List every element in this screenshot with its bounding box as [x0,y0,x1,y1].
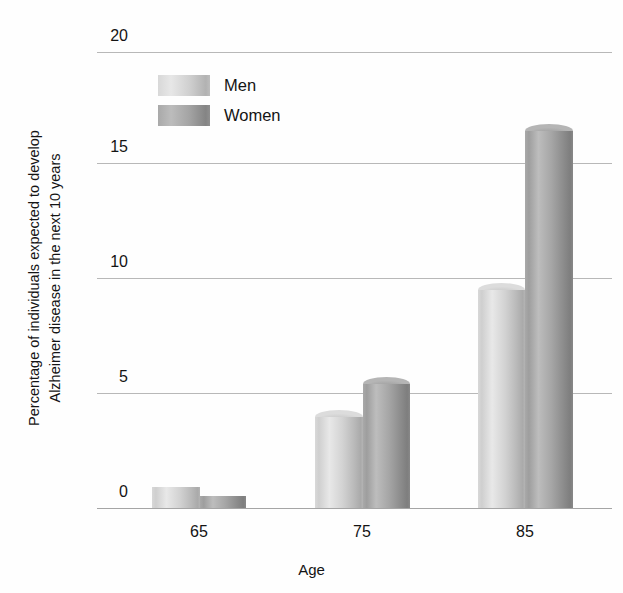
y-tick-label-20: 20 [94,28,128,44]
gridline-15 [97,163,612,164]
axis-baseline [97,508,612,509]
gridline-20 [97,52,612,53]
gridline-10 [97,278,612,279]
bar-body [525,131,573,508]
legend-entry-women: Women [158,105,281,126]
bar-cap [525,124,573,138]
bar-men-85 [478,283,525,508]
y-axis-title: Percentage of individuals expected to de… [22,18,68,538]
bar-men-75 [315,410,363,508]
y-axis-title-line-1: Percentage of individuals expected to de… [25,130,44,426]
bar-body [200,496,246,508]
bar-cap [478,283,525,297]
bar-men-65 [152,487,200,508]
bar-body [152,487,200,508]
x-axis-title: Age [0,561,623,578]
gridline-5 [97,393,612,394]
legend-swatch-men-icon [158,75,210,96]
bar-women-75 [363,377,410,508]
bar-cap [363,377,410,391]
legend-entry-men: Men [158,75,256,96]
y-tick-label-5: 5 [94,369,128,385]
bar-body [478,290,525,508]
legend-swatch-women-icon [158,105,210,126]
legend-label-men: Men [224,77,256,94]
x-tick-label-85: 85 [485,524,565,540]
y-tick-label-15: 15 [94,139,128,155]
y-tick-label-10: 10 [94,254,128,270]
bar-body [363,384,410,508]
bar-cap [315,410,363,424]
legend-label-women: Women [224,107,281,124]
x-tick-label-65: 65 [159,524,239,540]
x-tick-label-75: 75 [322,524,402,540]
bar-women-85 [525,124,573,508]
bar-body [315,417,363,508]
plot-area [0,0,623,593]
bar-women-65 [200,496,246,508]
y-tick-label-0: 0 [94,484,128,500]
alzheimer-risk-bar-chart: Percentage of individuals expected to de… [0,0,623,593]
y-axis-title-line-2: Alzheimer disease in the next 10 years [46,153,65,402]
